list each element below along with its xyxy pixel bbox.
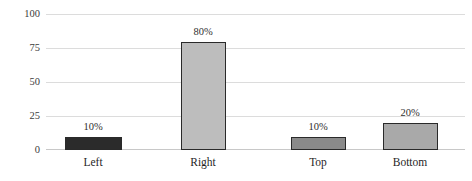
gridline-100 — [46, 14, 465, 15]
y-axis-tick-75: 75 — [0, 43, 40, 54]
gridline-50 — [46, 82, 465, 83]
category-label-right: Right — [190, 157, 216, 169]
category-label-top: Top — [309, 157, 327, 169]
bar-right[interactable] — [181, 42, 226, 150]
bar-value-right: 80% — [193, 27, 212, 38]
plot-area — [46, 14, 465, 150]
y-axis-tick-100: 100 — [0, 9, 40, 20]
bar-value-top: 10% — [308, 122, 327, 133]
gridline-75 — [46, 48, 465, 49]
y-axis-tick-50: 50 — [0, 77, 40, 88]
bar-value-left: 10% — [83, 122, 102, 133]
bar-left[interactable] — [65, 137, 122, 151]
category-label-bottom: Bottom — [393, 157, 428, 169]
bar-top[interactable] — [291, 137, 346, 151]
category-label-left: Left — [83, 157, 102, 169]
y-axis-tick-labels: 100 75 50 25 0 — [0, 14, 40, 150]
bar-chart: 100 75 50 25 0 10% 80% 10% 20% Left Righ… — [0, 0, 472, 181]
y-axis-tick-25: 25 — [0, 111, 40, 122]
bar-value-bottom: 20% — [400, 108, 419, 119]
bar-bottom[interactable] — [383, 123, 438, 150]
y-axis-tick-0: 0 — [0, 145, 40, 156]
